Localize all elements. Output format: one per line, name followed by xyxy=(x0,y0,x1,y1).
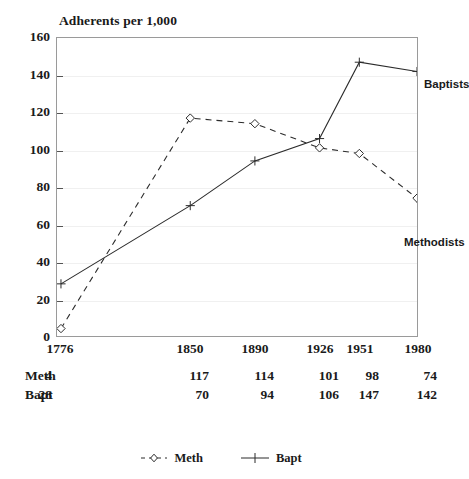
legend-label-meth: Meth xyxy=(174,451,202,466)
table-cell: 28 xyxy=(39,387,53,403)
x-tick-label: 1980 xyxy=(405,341,432,357)
y-tick-mark xyxy=(57,226,63,227)
y-tick-label: 60 xyxy=(2,217,50,233)
legend-entry-bapt: Bapt xyxy=(241,451,302,466)
y-tick-mark xyxy=(57,113,63,114)
y-axis: 020406080100120140160 xyxy=(0,37,50,337)
y-tick-mark xyxy=(57,151,63,152)
chart-title: Adherents per 1,000 xyxy=(59,13,177,29)
x-tick-label: 1776 xyxy=(47,341,74,357)
legend: Meth Bapt xyxy=(0,448,443,468)
legend-swatch-bapt-solid-plus xyxy=(241,452,269,464)
table-cell: 4 xyxy=(45,368,52,384)
table-cell: 117 xyxy=(189,368,209,384)
y-tick-label: 120 xyxy=(2,104,50,120)
y-tick-mark xyxy=(57,188,63,189)
x-tick-label: 1951 xyxy=(347,341,374,357)
table-cell: 106 xyxy=(319,387,339,403)
table-cell: 147 xyxy=(359,387,379,403)
table-cell: 70 xyxy=(196,387,210,403)
table-cell: 101 xyxy=(319,368,339,384)
table-cell: 94 xyxy=(261,387,275,403)
y-tick-label: 80 xyxy=(2,179,50,195)
table-row: Meth41171141019874 xyxy=(0,368,443,387)
data-table: Meth41171141019874Bapt287094106147142 xyxy=(0,368,443,406)
table-cell: 98 xyxy=(366,368,380,384)
legend-label-bapt: Bapt xyxy=(276,451,302,466)
y-tick-label: 40 xyxy=(2,254,50,270)
y-tick-label: 160 xyxy=(2,29,50,45)
y-tick-marks xyxy=(57,38,417,336)
y-tick-label: 20 xyxy=(2,292,50,308)
y-tick-mark xyxy=(57,263,63,264)
table-cell: 74 xyxy=(424,368,438,384)
table-row: Bapt287094106147142 xyxy=(0,387,443,406)
plot-area: Baptists Methodists xyxy=(56,37,418,337)
x-tick-label: 1926 xyxy=(307,341,334,357)
x-axis: 177618501890192619511980 xyxy=(0,341,443,359)
series-annotation-methodists: Methodists xyxy=(404,236,465,248)
y-tick-mark xyxy=(57,76,63,77)
x-tick-label: 1850 xyxy=(177,341,204,357)
y-tick-label: 140 xyxy=(2,67,50,83)
legend-swatch-meth-dashed-diamond xyxy=(141,452,167,464)
x-tick-label: 1890 xyxy=(242,341,269,357)
table-cell: 142 xyxy=(417,387,437,403)
table-cell: 114 xyxy=(254,368,274,384)
y-tick-mark xyxy=(57,301,63,302)
legend-entry-meth: Meth xyxy=(141,451,202,466)
series-annotation-baptists: Baptists xyxy=(424,78,469,90)
y-tick-label: 100 xyxy=(2,142,50,158)
